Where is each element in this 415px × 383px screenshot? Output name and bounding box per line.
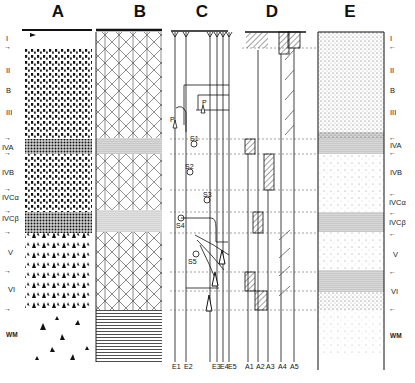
arrow-left-icon: ←: [389, 149, 396, 156]
arrow-right-icon: →: [4, 305, 11, 312]
arrow-left-icon: ←: [389, 230, 396, 237]
afferent-label: A3: [266, 363, 275, 370]
arrow-left-icon: ←: [389, 305, 396, 312]
arrow-right-icon: →: [4, 185, 11, 192]
layer-label: V: [393, 250, 398, 259]
neuron-label: P: [202, 99, 207, 106]
efferent-label: E1: [172, 363, 181, 370]
arrow-left-icon: ←: [389, 43, 396, 50]
layer-label: IVCα: [389, 198, 406, 207]
afferent-label: A5: [290, 363, 299, 370]
layer-label: V: [8, 248, 13, 257]
arrow-left-icon: ←: [389, 209, 396, 216]
arrow-right-icon: →: [4, 228, 11, 235]
layer-label: II: [6, 66, 10, 75]
layer-label: VI: [391, 287, 398, 296]
layer-label: IVB: [390, 168, 402, 177]
layer-label: B: [6, 86, 11, 95]
layer-label: VI: [8, 285, 15, 294]
neuron-label: S3: [203, 191, 212, 198]
arrow-right-icon: →: [4, 207, 11, 214]
layer-label: WM: [6, 331, 18, 338]
neuron-label: S2: [185, 163, 194, 170]
panel-c-circuit: [171, 31, 232, 362]
arrow-right-icon: →: [4, 267, 11, 274]
efferent-label: E5: [228, 363, 237, 370]
arrow-left-icon: ←: [389, 190, 396, 197]
neuron-label: S1: [190, 135, 199, 142]
efferent-label: E2: [184, 363, 193, 370]
arrow-left-icon: ←: [389, 134, 396, 141]
layer-label: II: [390, 66, 394, 75]
layer-label: III: [6, 108, 12, 117]
layer-label: I: [390, 34, 392, 43]
panel-b-golgi-stain: [96, 30, 162, 362]
layer-label: B: [390, 86, 395, 95]
layer-label: IVCβ: [389, 218, 406, 227]
arrow-right-icon: →: [4, 134, 11, 141]
layer-boundaries: [170, 48, 318, 310]
panel-d-afferents: [245, 32, 306, 362]
layer-label: IVCβ: [2, 214, 19, 223]
layer-label: IVB: [2, 168, 14, 177]
neuron-label: P: [170, 116, 175, 123]
neuron-label: S4: [176, 222, 185, 229]
panel-e-stipple: [318, 32, 384, 370]
neuron-label: S5: [188, 258, 197, 265]
afferent-label: A4: [278, 363, 287, 370]
afferent-label: A2: [256, 363, 265, 370]
afferent-label: A1: [245, 363, 254, 370]
layer-label: IVCα: [2, 193, 19, 202]
arrow-right-icon: →: [4, 149, 11, 156]
arrow-right-icon: →: [4, 43, 11, 50]
layer-label: WM: [390, 332, 402, 339]
layer-label: I: [6, 34, 8, 43]
layer-label: III: [390, 108, 396, 117]
panel-a-cell-density: [22, 30, 92, 360]
arrow-left-icon: ←: [389, 268, 396, 275]
